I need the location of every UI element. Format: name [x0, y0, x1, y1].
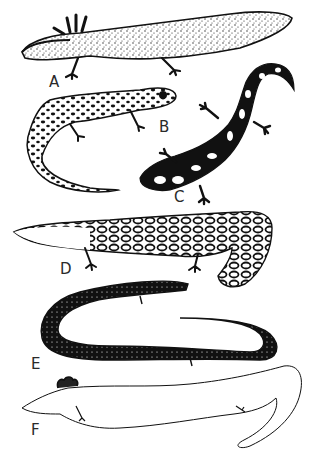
panel-label-c: C — [174, 190, 184, 205]
salamander-f-drawing — [22, 366, 301, 448]
panel-label-e: E — [31, 357, 40, 372]
panel-label-f: F — [31, 423, 40, 438]
salamander-a-drawing — [22, 12, 292, 79]
panel-label-b: B — [159, 120, 169, 135]
salamander-d-drawing — [14, 212, 272, 287]
illustration-canvas — [0, 0, 311, 458]
salamander-e-drawing — [41, 281, 277, 366]
salamander-figure: A B C D E F — [0, 0, 311, 458]
panel-label-d: D — [60, 262, 72, 277]
panel-label-a: A — [49, 75, 59, 90]
